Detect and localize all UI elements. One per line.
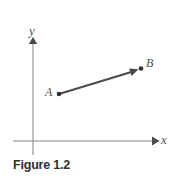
y-axis-arrowhead-icon (29, 37, 37, 44)
x-axis-arrowhead-icon (152, 137, 160, 146)
vector-ab-arrowhead-icon (129, 68, 138, 76)
vector-ab-shaft (59, 72, 133, 95)
point-b-marker (139, 66, 144, 71)
point-a-marker (57, 92, 62, 97)
point-b-label: B (146, 57, 153, 69)
figure-drawing-canvas (0, 0, 183, 183)
y-axis-label: y (29, 24, 35, 37)
x-axis-label: x (161, 133, 167, 146)
point-a-label: A (45, 86, 52, 98)
figure-caption: Figure 1.2 (13, 159, 70, 172)
figure-container: y x A B Figure 1.2 (0, 0, 183, 183)
